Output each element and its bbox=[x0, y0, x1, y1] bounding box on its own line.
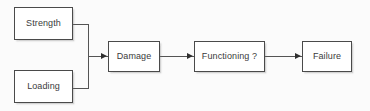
node-failure[interactable]: Failure bbox=[302, 41, 352, 72]
node-loading-label: Loading bbox=[27, 82, 60, 91]
node-strength-label: Strength bbox=[26, 19, 61, 28]
arrowhead-into-functioning bbox=[187, 53, 193, 59]
arrowhead-into-failure bbox=[295, 53, 301, 59]
node-functioning-label: Functioning ? bbox=[202, 52, 257, 61]
node-loading[interactable]: Loading bbox=[14, 70, 73, 103]
edge-loading-to-junction bbox=[73, 88, 89, 89]
node-damage[interactable]: Damage bbox=[108, 41, 160, 72]
edge-strength-to-junction bbox=[73, 24, 89, 25]
node-failure-label: Failure bbox=[313, 52, 341, 61]
node-damage-label: Damage bbox=[117, 52, 152, 61]
arrowhead-into-damage bbox=[101, 53, 107, 59]
node-strength[interactable]: Strength bbox=[14, 7, 73, 40]
node-functioning[interactable]: Functioning ? bbox=[194, 41, 265, 72]
flowchart-canvas: Strength Loading Damage Functioning ? Fa… bbox=[0, 0, 370, 111]
